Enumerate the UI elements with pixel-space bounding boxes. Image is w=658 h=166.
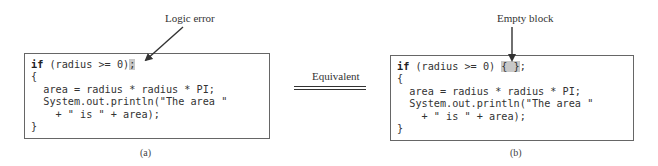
logic-error-arrow — [146, 27, 183, 60]
annotation-arrows — [0, 0, 658, 166]
